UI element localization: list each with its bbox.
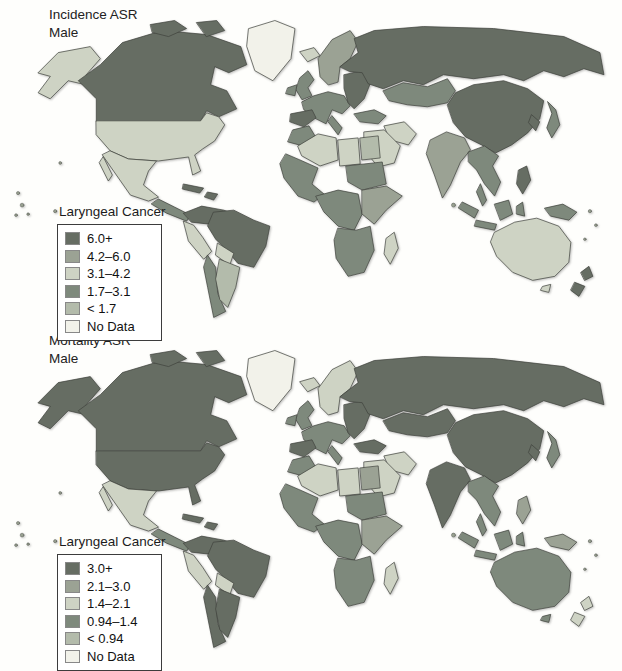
legend-label: 0.94–1.4: [87, 614, 138, 629]
sri-lanka-dot: [451, 533, 455, 537]
region-sudan: [346, 492, 386, 520]
region-sumatra: [458, 532, 478, 548]
incidence-title-line2: Male: [49, 24, 138, 42]
region-cuba: [183, 514, 204, 523]
legend-item: < 1.7: [65, 301, 151, 316]
legend-item: No Data: [65, 319, 151, 334]
legend-item: 3.1–4.2: [65, 266, 151, 281]
region-southeast-asia: [469, 476, 501, 526]
region-new-zealand-north: [581, 266, 593, 280]
pacific-island-dot: [584, 568, 587, 571]
region-borneo: [495, 530, 513, 550]
region-iceland: [300, 48, 320, 62]
region-canada: [78, 31, 247, 121]
legend-item: < 0.94: [65, 631, 151, 646]
legend-label: 1.7–3.1: [87, 284, 130, 299]
region-ireland: [286, 415, 297, 426]
legend-item: 0.94–1.4: [65, 614, 151, 629]
region-borneo: [495, 200, 513, 220]
region-new-guinea: [545, 204, 577, 220]
mortality-title-line2: Male: [49, 350, 131, 368]
region-malay-peninsula: [477, 184, 487, 206]
legend-label: 1.4–2.1: [87, 596, 130, 611]
pacific-island-dot: [16, 521, 19, 524]
region-madagascar: [384, 232, 398, 264]
legend-swatch: [65, 320, 80, 333]
incidence-map-panel: Incidence ASR Male: [0, 0, 622, 330]
region-east-africa: [362, 516, 402, 554]
region-greenland: [247, 21, 295, 81]
region-uk: [296, 71, 314, 100]
region-peru: [184, 551, 212, 589]
region-australia: [491, 218, 571, 280]
pacific-island-dot: [20, 533, 24, 537]
region-new-zealand-south: [571, 612, 585, 626]
legend-swatch: [65, 632, 80, 645]
region-canada: [78, 361, 247, 451]
legend-swatch: [65, 615, 80, 628]
region-southern-africa: [334, 226, 374, 276]
pacific-island-dot: [588, 540, 591, 543]
pacific-island-dot: [27, 543, 30, 546]
region-egypt: [360, 136, 380, 160]
mortality-legend: Laryngeal Cancer 3.0+2.1–3.01.4–2.10.94–…: [57, 534, 166, 671]
region-turkey: [354, 110, 386, 124]
legend-label: 6.0+: [87, 231, 113, 246]
region-madagascar: [384, 562, 398, 594]
region-new-guinea: [545, 534, 577, 550]
region-sulawesi: [517, 532, 525, 546]
legend-label: No Data: [87, 649, 135, 664]
legend-swatch: [65, 650, 80, 663]
hawaii-dot: [59, 162, 62, 165]
region-central-africa: [316, 190, 362, 230]
region-hispaniola: [205, 522, 218, 530]
legend-swatch: [65, 285, 80, 298]
region-libya: [338, 468, 360, 496]
region-japan: [547, 432, 560, 468]
region-turkey: [354, 440, 386, 454]
region-tasmania: [541, 284, 551, 292]
legend-item: 4.2–6.0: [65, 249, 151, 264]
region-spain: [290, 440, 316, 457]
region-southeast-asia: [469, 146, 501, 196]
pacific-island-dot: [27, 213, 30, 216]
region-philippines: [517, 496, 531, 524]
legend-swatch: [65, 250, 80, 263]
legend-swatch: [65, 562, 80, 575]
region-java: [475, 550, 497, 560]
hawaii-dot: [59, 492, 62, 495]
region-india: [426, 462, 470, 528]
legend-swatch: [65, 267, 80, 280]
legend-item: 1.4–2.1: [65, 596, 151, 611]
legend-label: No Data: [87, 319, 135, 334]
pacific-island-dot: [595, 554, 598, 557]
legend-swatch: [65, 580, 80, 593]
legend-item: 6.0+: [65, 231, 151, 246]
legend-item: 2.1–3.0: [65, 579, 151, 594]
legend-item: 3.0+: [65, 561, 151, 576]
region-libya: [338, 138, 360, 166]
mortality-legend-box: 3.0+2.1–3.01.4–2.10.94–1.4< 0.94No Data: [57, 554, 162, 671]
legend-item: No Data: [65, 649, 151, 664]
legend-label: 3.0+: [87, 561, 113, 576]
region-japan: [547, 102, 560, 138]
region-india: [426, 132, 470, 198]
pacific-island-dot: [595, 224, 598, 227]
legend-swatch: [65, 232, 80, 245]
region-australia: [491, 548, 571, 610]
legend-label: < 1.7: [87, 301, 116, 316]
legend-label: 4.2–6.0: [87, 249, 130, 264]
region-philippines: [517, 166, 531, 194]
region-egypt: [360, 466, 380, 490]
incidence-map-title: Incidence ASR Male: [49, 6, 138, 42]
incidence-title-line1: Incidence ASR: [49, 6, 138, 24]
region-brazil: [208, 540, 270, 597]
region-ireland: [286, 85, 297, 96]
region-tasmania: [541, 614, 551, 622]
incidence-legend-box: 6.0+4.2–6.03.1–4.21.7–3.1< 1.7No Data: [57, 224, 162, 341]
region-east-africa: [362, 186, 402, 224]
legend-title: Laryngeal Cancer: [59, 204, 166, 219]
legend-title: Laryngeal Cancer: [59, 534, 166, 549]
region-brazil: [208, 210, 270, 267]
legend-swatch: [65, 597, 80, 610]
